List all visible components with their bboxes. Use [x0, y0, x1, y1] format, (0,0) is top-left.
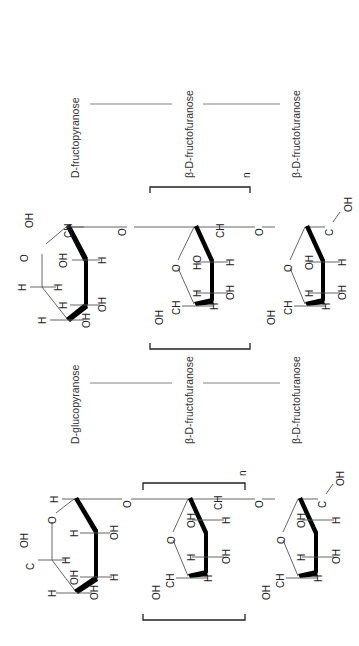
- label-beta-d-fructofuranose-top-middle: β-D-fructofuranose: [183, 90, 195, 178]
- svg-text:OH: OH: [154, 310, 165, 325]
- svg-text:O: O: [19, 254, 30, 262]
- svg-text:OH: OH: [343, 197, 354, 212]
- repeat-bracket-bottom: [143, 614, 245, 620]
- svg-text:CH: CH: [283, 301, 294, 315]
- svg-text:H: H: [186, 554, 197, 561]
- top-fructofuranose-repeat: n CH O HO H H OH CH OH H: [150, 172, 252, 349]
- svg-text:H: H: [225, 259, 236, 266]
- svg-text:OH: OH: [331, 549, 342, 564]
- svg-text:H: H: [37, 317, 48, 324]
- svg-text:H: H: [17, 284, 28, 291]
- svg-text:H: H: [109, 574, 120, 581]
- label-beta-d-fructofuranose-top-right: β-D-fructofuranose: [290, 90, 302, 178]
- label-d-glucopyranose: D-glucopyranose: [69, 364, 81, 444]
- svg-text:O: O: [122, 500, 133, 508]
- svg-text:OH: OH: [151, 585, 162, 600]
- svg-text:CH: CH: [215, 224, 226, 238]
- svg-text:H: H: [61, 557, 72, 564]
- label-d-fructopyranose: D-fructopyranose: [69, 97, 81, 178]
- d-glucopyranose-ring: H O H OH C OH H OH H H OH: [19, 496, 120, 600]
- svg-text:H: H: [47, 590, 58, 597]
- label-beta-d-fructofuranose-bottom-middle: β-D-fructofuranose: [183, 356, 195, 444]
- repeat-bracket-top: [150, 187, 250, 193]
- svg-text:OH: OH: [186, 513, 197, 528]
- repeat-bracket-top: [143, 483, 245, 490]
- d-fructopyranose-ring: OH CH O OH H H OH H H H OH: [17, 213, 108, 328]
- svg-text:O: O: [283, 264, 294, 272]
- svg-text:C: C: [317, 501, 328, 508]
- svg-text:CH: CH: [63, 224, 74, 238]
- svg-text:H: H: [221, 517, 232, 524]
- svg-text:OH: OH: [24, 213, 35, 228]
- svg-text:OH: OH: [58, 253, 69, 268]
- svg-text:OH: OH: [266, 310, 277, 325]
- bottom-backbone: O O: [74, 499, 275, 508]
- fructan-structure-diagram: D-fructopyranose β-D-fructofuranose β-D-…: [0, 0, 359, 646]
- svg-text:H: H: [58, 302, 69, 309]
- svg-text:OH: OH: [97, 297, 108, 312]
- svg-text:OH: OH: [19, 533, 30, 548]
- svg-text:OH: OH: [261, 585, 272, 600]
- svg-text:O: O: [276, 536, 287, 544]
- top-backbone: O O: [66, 227, 275, 236]
- label-beta-d-fructofuranose-bottom-right: β-D-fructofuranose: [290, 356, 302, 444]
- svg-text:H: H: [97, 257, 108, 264]
- svg-text:OH: OH: [335, 471, 346, 486]
- svg-text:CH: CH: [213, 496, 224, 510]
- svg-text:H: H: [296, 554, 307, 561]
- repeat-bracket-bottom: [150, 343, 250, 349]
- svg-text:O: O: [254, 500, 265, 508]
- svg-text:O: O: [117, 228, 128, 236]
- svg-text:O: O: [47, 516, 58, 524]
- svg-text:H: H: [192, 290, 203, 297]
- svg-text:CH: CH: [171, 301, 182, 315]
- svg-text:C: C: [25, 563, 36, 570]
- svg-text:H: H: [53, 284, 64, 291]
- svg-text:OH: OH: [69, 570, 80, 585]
- top-fructofuranose-terminal: C OH O OH H H OH CH OH H: [266, 197, 354, 325]
- svg-text:H: H: [331, 517, 342, 524]
- svg-text:H: H: [209, 303, 220, 310]
- repeat-index-n: n: [241, 172, 252, 178]
- svg-text:OH: OH: [304, 255, 315, 270]
- svg-text:H: H: [203, 575, 214, 582]
- svg-text:H: H: [49, 496, 60, 503]
- repeat-index-n: n: [237, 470, 248, 476]
- svg-text:H: H: [304, 290, 315, 297]
- svg-text:CH: CH: [275, 574, 286, 588]
- svg-text:OH: OH: [225, 285, 236, 300]
- svg-text:O: O: [166, 536, 177, 544]
- svg-text:H: H: [337, 259, 348, 266]
- svg-text:OH: OH: [81, 313, 92, 328]
- svg-text:C: C: [324, 229, 335, 236]
- svg-text:OH: OH: [89, 585, 100, 600]
- svg-text:H: H: [313, 575, 324, 582]
- svg-text:OH: OH: [109, 525, 120, 540]
- svg-text:O: O: [254, 228, 265, 236]
- svg-text:OH: OH: [337, 285, 348, 300]
- svg-text:OH: OH: [221, 549, 232, 564]
- bottom-fructofuranose-terminal: C OH O OH H H OH CH OH H: [261, 471, 346, 600]
- svg-text:H: H: [321, 303, 332, 310]
- svg-text:HO: HO: [192, 255, 203, 270]
- svg-text:OH: OH: [296, 513, 307, 528]
- svg-text:O: O: [171, 264, 182, 272]
- svg-text:H: H: [69, 530, 80, 537]
- svg-text:CH: CH: [165, 574, 176, 588]
- bottom-fructofuranose-repeat: n CH O OH H H OH CH OH H: [143, 470, 248, 620]
